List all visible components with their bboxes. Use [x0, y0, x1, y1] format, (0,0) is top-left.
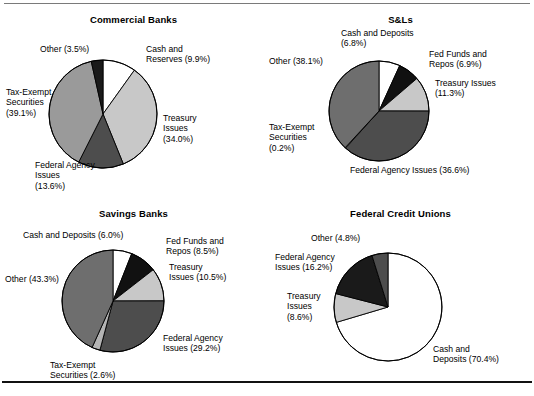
slice-label: Treasury Issues (10.5%)	[169, 262, 226, 283]
slice-label: Treasury Issues (11.3%)	[435, 78, 496, 99]
slice-label: Other (3.5%)	[40, 44, 89, 54]
slice-label: Cash and Deposits (70.4%)	[433, 344, 499, 365]
slice-label: Federal Agency Issues (13.6%)	[35, 160, 95, 191]
chart-title: S&Ls	[267, 14, 534, 25]
slice-label: Federal Agency Issues (29.2%)	[163, 333, 223, 354]
slice-label: Other (38.1%)	[269, 56, 323, 66]
chart-title: Federal Credit Unions	[267, 208, 534, 219]
slice-label: Cash and Deposits (6.8%)	[341, 28, 414, 49]
slice-label: Treasury Issues (8.6%)	[287, 291, 321, 322]
slice-label: Federal Agency Issues (16.2%)	[275, 252, 335, 273]
slice-label: Fed Funds and Repos (8.5%)	[166, 236, 224, 257]
pie-chart	[60, 248, 166, 354]
slice-label: Fed Funds and Repos (6.9%)	[429, 49, 487, 70]
slice-label: Cash and Reserves (9.9%)	[146, 44, 210, 65]
chart-panel-savings-banks: Savings Banks Cash and Deposits (6.0%)Fe…	[0, 200, 267, 390]
pie-chart	[327, 59, 431, 163]
slice-label: Tax-Exempt Securities (0.2%)	[269, 122, 314, 153]
top-rule	[4, 3, 530, 4]
pie-chart	[47, 58, 159, 170]
slice-label: Federal Agency Issues (36.6%)	[350, 165, 469, 175]
chart-title: Commercial Banks	[0, 14, 267, 25]
slice-label: Other (4.8%)	[311, 233, 360, 243]
slice-label: Tax-Exempt Securities (2.6%)	[50, 360, 115, 381]
chart-panel-s-and-ls: S&Ls Cash and Deposits (6.8%)Fed Funds a…	[267, 8, 534, 198]
chart-panel-federal-credit-unions: Federal Credit Unions Cash and Deposits …	[267, 200, 534, 390]
figure-canvas: Commercial Banks Cash and Reserves (9.9%…	[0, 0, 534, 396]
pie-chart	[332, 251, 444, 363]
slice-label: Tax-Exempt Securities (39.1%)	[6, 87, 51, 118]
slice-label: Treasury Issues (34.0%)	[163, 113, 197, 144]
chart-title: Savings Banks	[0, 208, 267, 219]
slice-label: Cash and Deposits (6.0%)	[23, 230, 123, 240]
chart-panel-commercial-banks: Commercial Banks Cash and Reserves (9.9%…	[0, 8, 267, 198]
slice-label: Other (43.3%)	[5, 274, 59, 284]
